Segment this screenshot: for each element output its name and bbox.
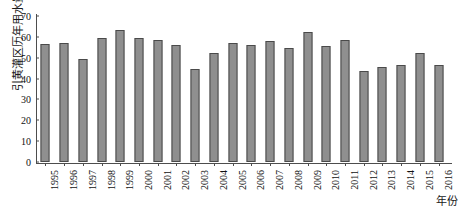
y-tick-mark (36, 141, 39, 142)
bar-slot (411, 16, 430, 162)
x-tick-label: 2016 (443, 170, 454, 190)
x-tick-mark (64, 163, 65, 166)
x-tick-mark (401, 163, 402, 166)
x-tick-mark (233, 163, 234, 166)
x-tick-mark (195, 163, 196, 166)
y-tick-label: 50 (0, 52, 31, 63)
bar-slot (55, 16, 74, 162)
y-tick-mark (36, 99, 39, 100)
bar-slot (373, 16, 392, 162)
x-tick-label: 1999 (124, 170, 135, 190)
x-tick-label: 2010 (330, 170, 341, 190)
x-tick-mark (45, 163, 46, 166)
x-tick-mark (270, 163, 271, 166)
bar (434, 65, 443, 162)
y-tick-label: 60 (0, 31, 31, 42)
y-tick-mark (36, 16, 39, 17)
bar (359, 71, 368, 162)
bar-slot (354, 16, 373, 162)
x-tick-label: 2008 (293, 170, 304, 190)
bar (322, 46, 331, 162)
x-tick-mark (139, 163, 140, 166)
bar-slot (429, 16, 448, 162)
x-tick-mark (158, 163, 159, 166)
x-tick-mark (120, 163, 121, 166)
bar (78, 59, 87, 162)
x-tick-label: 2003 (199, 170, 210, 190)
bar-slot (317, 16, 336, 162)
x-tick-label: 1997 (87, 170, 98, 190)
x-tick-label: 1995 (49, 170, 60, 190)
bar-slot (392, 16, 411, 162)
bar (303, 32, 312, 162)
x-tick-label: 2006 (255, 170, 266, 190)
bar-slot (73, 16, 92, 162)
bar (191, 69, 200, 162)
bar-slot (92, 16, 111, 162)
x-tick-label: 2009 (312, 170, 323, 190)
bar (228, 43, 237, 162)
x-axis-line (36, 163, 452, 164)
x-tick-mark (345, 163, 346, 166)
x-tick-mark (382, 163, 383, 166)
y-tick-mark (36, 162, 39, 163)
x-tick-mark (326, 163, 327, 166)
bar-slot (186, 16, 205, 162)
x-tick-mark (289, 163, 290, 166)
bar (60, 43, 69, 162)
y-tick-mark (36, 78, 39, 79)
bar (340, 40, 349, 162)
x-tick-mark (308, 163, 309, 166)
bar (116, 30, 125, 162)
x-tick-mark (420, 163, 421, 166)
x-tick-mark (102, 163, 103, 166)
bar-slot (298, 16, 317, 162)
y-tick-mark (36, 120, 39, 121)
x-tick-label: 2013 (386, 170, 397, 190)
bar-slot (261, 16, 280, 162)
y-tick-mark (36, 57, 39, 58)
bar (172, 45, 181, 162)
x-tick-label: 2015 (424, 170, 435, 190)
bar-slot (148, 16, 167, 162)
y-tick-label: 0 (0, 157, 31, 168)
x-tick-label: 2007 (274, 170, 285, 190)
x-tick-label: 1998 (106, 170, 117, 190)
bar (41, 44, 50, 162)
bar (415, 53, 424, 163)
bar-slot (167, 16, 186, 162)
chart-figure: 引黄灌区历年用水量/亿 m3 010203040506070 199519961… (0, 0, 464, 212)
bar (284, 48, 293, 162)
y-tick-label: 20 (0, 115, 31, 126)
x-axis-title: 年份 (436, 192, 458, 208)
bar (397, 65, 406, 162)
x-tick-label: 2005 (237, 170, 248, 190)
x-tick-label: 1996 (68, 170, 79, 190)
bar (153, 40, 162, 162)
x-tick-mark (214, 163, 215, 166)
x-tick-mark (176, 163, 177, 166)
x-tick-label: 2001 (162, 170, 173, 190)
x-tick-mark (251, 163, 252, 166)
y-tick-label: 40 (0, 73, 31, 84)
x-tick-mark (83, 163, 84, 166)
x-tick-label: 2000 (143, 170, 154, 190)
x-tick-label: 2011 (349, 170, 360, 190)
x-tick-label: 2002 (180, 170, 191, 190)
y-tick-label: 30 (0, 94, 31, 105)
x-tick-label: 2004 (218, 170, 229, 190)
y-tick-label: 10 (0, 136, 31, 147)
bar-slot (223, 16, 242, 162)
bar-series (36, 16, 448, 162)
bar (378, 67, 387, 162)
x-tick-mark (439, 163, 440, 166)
x-tick-label: 2012 (368, 170, 379, 190)
y-tick-label: 70 (0, 11, 31, 22)
bar-slot (111, 16, 130, 162)
bar (97, 38, 106, 162)
x-tick-mark (364, 163, 365, 166)
bar-slot (279, 16, 298, 162)
bar (266, 41, 275, 162)
bar-slot (205, 16, 224, 162)
plot-area (36, 16, 448, 162)
